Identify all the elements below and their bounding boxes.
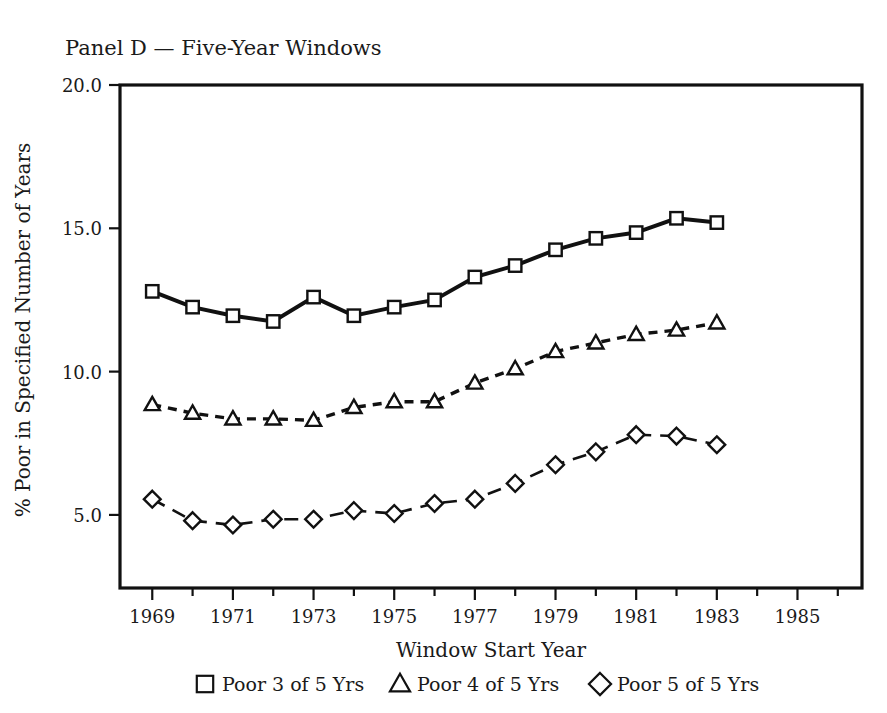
x-axis-tick-labels: 196919711973197519771979198119831985 [129, 606, 820, 627]
y-axis-title: % Poor in Specified Number of Years [11, 143, 35, 518]
data-point-marker [186, 301, 198, 313]
y-axis-tick-labels: 5.010.015.020.0 [62, 75, 102, 526]
data-point-marker [305, 511, 322, 528]
data-point-marker [708, 436, 725, 453]
data-point-marker [630, 226, 642, 238]
y-tick-label: 20.0 [62, 75, 102, 96]
data-point-marker [144, 491, 161, 508]
y-tick-label: 10.0 [62, 362, 102, 383]
data-point-marker [428, 294, 440, 306]
data-point-marker [709, 315, 724, 328]
data-point-marker [509, 259, 521, 271]
x-tick-label: 1975 [371, 606, 417, 627]
data-point-marker [386, 505, 403, 522]
x-axis-title: Window Start Year [396, 638, 587, 662]
series-3 [144, 426, 725, 533]
data-point-marker [628, 426, 645, 443]
data-point-marker [711, 216, 723, 228]
data-point-marker [469, 271, 481, 283]
series-1 [146, 212, 723, 328]
data-point-marker [184, 512, 201, 529]
x-tick-label: 1969 [129, 606, 175, 627]
five-year-windows-line-chart: Panel D — Five-Year Windows % Poor in Sp… [0, 0, 887, 713]
legend-marker-triangle [390, 674, 410, 692]
data-point-marker [145, 397, 160, 410]
data-point-marker [547, 456, 564, 473]
panel-title: Panel D — Five-Year Windows [65, 36, 382, 60]
data-point-marker [588, 335, 603, 348]
data-point-marker [670, 212, 682, 224]
y-tick-label: 5.0 [73, 505, 102, 526]
data-point-marker [267, 315, 279, 327]
data-series-layer [144, 212, 725, 533]
x-tick-label: 1979 [533, 606, 579, 627]
data-point-marker [426, 495, 443, 512]
data-point-marker [587, 443, 604, 460]
legend-label: Poor 4 of 5 Yrs [417, 673, 559, 695]
data-point-marker [307, 291, 319, 303]
x-tick-label: 1973 [291, 606, 337, 627]
y-axis-tick-marks [109, 85, 120, 515]
data-point-marker [346, 502, 363, 519]
data-point-marker [668, 428, 685, 445]
data-point-marker [549, 244, 561, 256]
legend-label: Poor 3 of 5 Yrs [222, 673, 364, 695]
series-2 [145, 315, 725, 426]
legend-item-3[interactable]: Poor 5 of 5 Yrs [589, 673, 759, 695]
chart-figure: Panel D — Five-Year Windows % Poor in Sp… [0, 0, 887, 713]
data-point-marker [467, 491, 484, 508]
plot-frame [120, 85, 862, 588]
data-point-marker [507, 475, 524, 492]
data-point-marker [348, 310, 360, 322]
data-point-marker [387, 394, 402, 407]
data-point-marker [590, 232, 602, 244]
data-point-marker [225, 517, 242, 534]
legend-item-2[interactable]: Poor 4 of 5 Yrs [390, 673, 559, 695]
x-tick-label: 1985 [775, 606, 821, 627]
data-point-marker [467, 375, 482, 388]
data-point-marker [146, 285, 158, 297]
legend-label: Poor 5 of 5 Yrs [617, 673, 759, 695]
x-tick-label: 1981 [613, 606, 659, 627]
x-tick-label: 1983 [694, 606, 740, 627]
data-point-marker [388, 301, 400, 313]
x-axis-tick-marks [152, 588, 838, 600]
x-tick-label: 1977 [452, 606, 498, 627]
legend-item-1[interactable]: Poor 3 of 5 Yrs [197, 673, 364, 695]
legend-marker-square [197, 676, 213, 692]
data-point-marker [265, 511, 282, 528]
chart-legend: Poor 3 of 5 YrsPoor 4 of 5 YrsPoor 5 of … [197, 673, 759, 695]
y-tick-label: 15.0 [62, 218, 102, 239]
legend-marker-diamond [589, 673, 611, 695]
x-tick-label: 1971 [210, 606, 256, 627]
data-point-marker [227, 310, 239, 322]
data-point-marker [508, 361, 523, 374]
